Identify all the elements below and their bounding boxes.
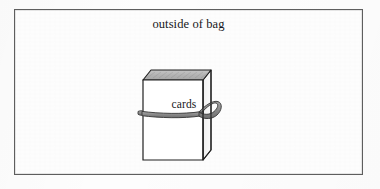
card-box-svg [125,56,235,171]
cards-label: cards [129,98,239,111]
box-front-face [143,80,203,160]
card-box-illustration: cards [125,56,235,171]
box-top-face [143,70,211,80]
figure-root: outside of bag [0,0,380,189]
outside-of-bag-label: outside of bag [15,17,362,32]
figure-frame: outside of bag [14,9,363,175]
